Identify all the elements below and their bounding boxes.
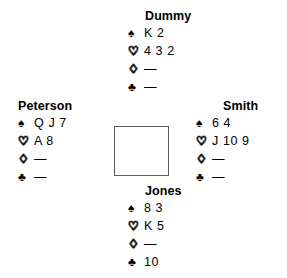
cards-north-diamonds: — xyxy=(142,60,157,78)
spade-icon: ♠ xyxy=(196,114,210,132)
hand-label-north: Dummy xyxy=(115,9,191,24)
club-icon: ♣ xyxy=(196,168,210,186)
suit-row-east-clubs: ♣ — xyxy=(196,168,258,186)
hand-north-dummy: Dummy ♠ K 2 ♡ 4 3 2 ♢ — ♣ — xyxy=(115,9,191,96)
cards-south-clubs: 10 xyxy=(142,253,159,271)
cards-south-hearts: K 5 xyxy=(142,217,165,235)
suit-row-east-hearts: ♡ J 10 9 xyxy=(196,132,258,150)
suit-row-north-hearts: ♡ 4 3 2 xyxy=(115,42,191,60)
club-icon: ♣ xyxy=(18,168,32,186)
suit-row-south-diamonds: ♢ — xyxy=(115,235,182,253)
cards-west-clubs: — xyxy=(32,168,47,186)
suit-row-west-clubs: ♣ — xyxy=(18,168,72,186)
cards-west-hearts: A 8 xyxy=(32,132,54,150)
spade-icon: ♠ xyxy=(128,24,142,42)
suit-row-north-diamonds: ♢ — xyxy=(115,60,191,78)
suit-row-west-diamonds: ♢ — xyxy=(18,150,72,168)
bridge-hand-diagram: Dummy ♠ K 2 ♡ 4 3 2 ♢ — ♣ — Peterson ♠ Q… xyxy=(0,0,287,278)
spade-icon: ♠ xyxy=(128,199,142,217)
diamond-icon: ♢ xyxy=(196,150,210,168)
cards-east-diamonds: — xyxy=(210,150,225,168)
hand-label-south: Jones xyxy=(115,184,182,199)
suit-row-south-hearts: ♡ K 5 xyxy=(115,217,182,235)
suit-row-east-spades: ♠ 6 4 xyxy=(196,114,258,132)
diamond-icon: ♢ xyxy=(128,60,142,78)
heart-icon: ♡ xyxy=(128,42,142,60)
suit-row-south-clubs: ♣ 10 xyxy=(115,253,182,271)
cards-west-spades: Q J 7 xyxy=(32,114,67,132)
heart-icon: ♡ xyxy=(196,132,210,150)
cards-east-hearts: J 10 9 xyxy=(210,132,250,150)
diamond-icon: ♢ xyxy=(128,235,142,253)
heart-icon: ♡ xyxy=(128,217,142,235)
suit-row-west-spades: ♠ Q J 7 xyxy=(18,114,72,132)
suit-row-north-clubs: ♣ — xyxy=(115,78,191,96)
cards-south-diamonds: — xyxy=(142,235,157,253)
diamond-icon: ♢ xyxy=(18,150,32,168)
cards-north-spades: K 2 xyxy=(142,24,165,42)
cards-east-spades: 6 4 xyxy=(210,114,231,132)
hand-label-east: Smith xyxy=(196,99,258,114)
club-icon: ♣ xyxy=(128,78,142,96)
hand-label-west: Peterson xyxy=(18,99,72,114)
club-icon: ♣ xyxy=(128,253,142,271)
cards-north-hearts: 4 3 2 xyxy=(142,42,175,60)
cards-west-diamonds: — xyxy=(32,150,47,168)
hand-east-smith: Smith ♠ 6 4 ♡ J 10 9 ♢ — ♣ — xyxy=(196,99,258,186)
suit-row-east-diamonds: ♢ — xyxy=(196,150,258,168)
suit-row-south-spades: ♠ 8 3 xyxy=(115,199,182,217)
cards-south-spades: 8 3 xyxy=(142,199,163,217)
suit-row-north-spades: ♠ K 2 xyxy=(115,24,191,42)
spade-icon: ♠ xyxy=(18,114,32,132)
suit-row-west-hearts: ♡ A 8 xyxy=(18,132,72,150)
hand-west-peterson: Peterson ♠ Q J 7 ♡ A 8 ♢ — ♣ — xyxy=(18,99,72,186)
center-trick-box xyxy=(114,126,169,176)
heart-icon: ♡ xyxy=(18,132,32,150)
hand-south-jones: Jones ♠ 8 3 ♡ K 5 ♢ — ♣ 10 xyxy=(115,184,182,271)
cards-north-clubs: — xyxy=(142,78,157,96)
cards-east-clubs: — xyxy=(210,168,225,186)
